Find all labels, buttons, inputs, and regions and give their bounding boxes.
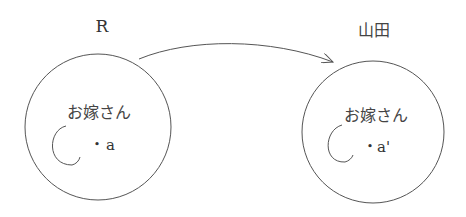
set-r-bullet: •: [94, 138, 101, 151]
set-r-circle: [25, 54, 171, 200]
set-r: R お嫁さん • a: [25, 16, 171, 200]
set-yamada-loop-arc-icon: [328, 125, 353, 162]
set-yamada-circle: [302, 61, 444, 203]
set-r-inner-text: お嫁さん: [67, 103, 131, 122]
set-r-label: R: [96, 16, 110, 36]
mapping-arrow: [139, 44, 333, 62]
set-yamada: 山田 お嫁さん • a': [302, 21, 444, 203]
mapping-diagram: R お嫁さん • a 山田 お嫁さん • a': [0, 0, 466, 217]
set-yamada-point-label: a': [377, 138, 390, 156]
set-yamada-bullet: •: [367, 140, 374, 153]
set-r-point-label: a: [106, 136, 115, 154]
set-yamada-inner-text: お嫁さん: [344, 106, 408, 125]
set-yamada-label: 山田: [358, 21, 390, 40]
set-r-loop-arc-icon: [52, 126, 80, 165]
